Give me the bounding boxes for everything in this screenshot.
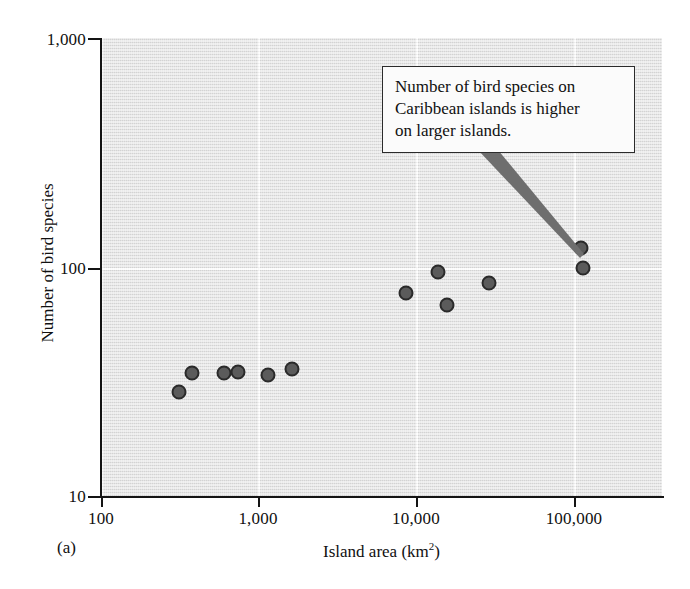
annotation-callout: Number of bird species on Caribbean isla… xyxy=(382,66,635,153)
y-tick-label-10: 10 xyxy=(69,487,86,507)
data-point xyxy=(217,366,232,381)
x-tick-label-10000: 10,000 xyxy=(392,509,440,529)
data-point xyxy=(399,286,414,301)
panel-label: (a) xyxy=(57,538,76,558)
x-axis-title: Island area (km2) xyxy=(101,540,662,562)
data-point xyxy=(261,368,276,383)
x-tick-label-100000: 100,000 xyxy=(546,509,603,529)
x-tick-1000 xyxy=(258,498,260,507)
x-axis-title-base: Island area (km xyxy=(323,542,429,561)
data-point xyxy=(231,365,246,380)
x-tick-label-100: 100 xyxy=(88,509,114,529)
annotation-line-3: on larger islands. xyxy=(395,120,623,142)
figure-panel: Number of bird species on Caribbean isla… xyxy=(0,0,690,589)
y-tick-10 xyxy=(88,496,101,498)
data-point xyxy=(574,241,589,256)
annotation-line-1: Number of bird species on xyxy=(395,76,623,98)
y-tick-1000 xyxy=(88,38,101,40)
x-tick-10000 xyxy=(416,498,418,507)
data-point xyxy=(285,362,300,377)
data-point xyxy=(576,261,591,276)
data-point xyxy=(172,385,187,400)
y-tick-100 xyxy=(88,268,101,270)
data-point xyxy=(431,265,446,280)
y-axis-title: Number of bird species xyxy=(38,123,58,403)
data-point xyxy=(185,366,200,381)
data-point xyxy=(440,298,455,313)
x-axis-title-tail: ) xyxy=(434,542,440,561)
x-tick-100000 xyxy=(574,498,576,507)
x-tick-100 xyxy=(101,498,103,507)
y-tick-label-1000: 1,000 xyxy=(47,30,86,50)
annotation-line-2: Caribbean islands is higher xyxy=(395,98,623,120)
x-tick-label-1000: 1,000 xyxy=(238,509,277,529)
data-point xyxy=(482,276,497,291)
y-tick-label-100: 100 xyxy=(60,259,86,279)
x-axis-line xyxy=(101,496,664,498)
